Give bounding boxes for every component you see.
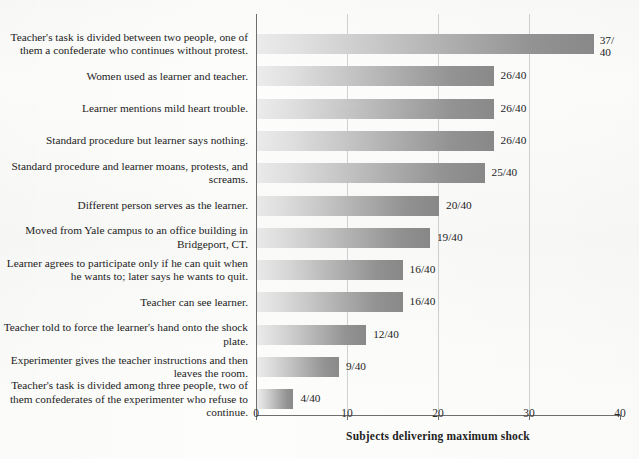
bar-fill bbox=[257, 325, 366, 345]
bar[interactable] bbox=[257, 228, 430, 248]
bar[interactable] bbox=[257, 325, 366, 345]
bar-chart-figure: 010203040 Subjects delivering maximum sh… bbox=[0, 0, 639, 459]
category-label: Learner mentions mild heart trouble. bbox=[0, 102, 248, 115]
category-label: Standard procedure but learner says noth… bbox=[0, 134, 248, 147]
bar-row: Standard procedure but learner says noth… bbox=[0, 131, 639, 151]
bar-value-label: 16/40 bbox=[410, 296, 436, 308]
bar[interactable] bbox=[257, 34, 594, 54]
bar[interactable] bbox=[257, 357, 339, 377]
category-label: Learner agrees to participate only if he… bbox=[0, 257, 248, 284]
category-label: Teacher's task is divided between two pe… bbox=[0, 31, 248, 58]
bar-row: Teacher can see learner.16/40 bbox=[0, 292, 639, 312]
bar-fill bbox=[257, 66, 494, 86]
category-label: Moved from Yale campus to an office buil… bbox=[0, 224, 248, 251]
bar-fill bbox=[257, 228, 430, 248]
bar-value-label: 16/40 bbox=[410, 264, 436, 276]
bar-value-label: 26/40 bbox=[501, 103, 527, 115]
bar-fill bbox=[257, 260, 403, 280]
bar-value-label: 37/ 40 bbox=[600, 34, 614, 58]
bar-fill bbox=[257, 99, 494, 119]
bar-row: Standard procedure and learner moans, pr… bbox=[0, 163, 639, 183]
bar-row: Learner agrees to participate only if he… bbox=[0, 260, 639, 280]
bar[interactable] bbox=[257, 260, 403, 280]
bar-value-label: 25/40 bbox=[492, 167, 518, 179]
bar-row: Teacher told to force the learner's hand… bbox=[0, 325, 639, 345]
bar[interactable] bbox=[257, 292, 403, 312]
bar-value-label: 9/40 bbox=[346, 361, 366, 373]
category-label: Teacher told to force the learner's hand… bbox=[0, 321, 248, 348]
bar-row: Learner mentions mild heart trouble.26/4… bbox=[0, 99, 639, 119]
bar-fill bbox=[257, 163, 485, 183]
bar-fill bbox=[257, 292, 403, 312]
bar-value-label: 26/40 bbox=[501, 70, 527, 82]
bar-row: Teacher's task is divided between two pe… bbox=[0, 34, 639, 54]
bar[interactable] bbox=[257, 131, 494, 151]
category-label: Standard procedure and learner moans, pr… bbox=[0, 160, 248, 187]
bar-fill bbox=[257, 357, 339, 377]
category-label: Women used as learner and teacher. bbox=[0, 70, 248, 83]
category-label: Different person serves as the learner. bbox=[0, 199, 248, 212]
bar[interactable] bbox=[257, 163, 485, 183]
category-label: Teacher's task is divided among three pe… bbox=[0, 379, 248, 419]
category-label: Teacher can see learner. bbox=[0, 296, 248, 309]
bar-row: Teacher's task is divided among three pe… bbox=[0, 389, 639, 409]
bar-row: Women used as learner and teacher.26/40 bbox=[0, 66, 639, 86]
bar-value-label: 26/40 bbox=[501, 135, 527, 147]
bar-row: Experimenter gives the teacher instructi… bbox=[0, 357, 639, 377]
bar-fill bbox=[257, 196, 439, 216]
bar-value-label: 20/40 bbox=[446, 200, 472, 212]
bar-value-label: 4/40 bbox=[300, 393, 320, 405]
category-label: Experimenter gives the teacher instructi… bbox=[0, 354, 248, 381]
bar[interactable] bbox=[257, 66, 494, 86]
bar-fill bbox=[257, 389, 293, 409]
bar-row: Moved from Yale campus to an office buil… bbox=[0, 228, 639, 248]
bar-fill bbox=[257, 131, 494, 151]
bar-row: Different person serves as the learner.2… bbox=[0, 196, 639, 216]
bar[interactable] bbox=[257, 99, 494, 119]
bar[interactable] bbox=[257, 389, 293, 409]
x-axis-title: Subjects delivering maximum shock bbox=[256, 430, 620, 442]
bar-value-label: 19/40 bbox=[437, 232, 463, 244]
bar[interactable] bbox=[257, 196, 439, 216]
bar-fill bbox=[257, 34, 594, 54]
bar-value-label: 12/40 bbox=[373, 329, 399, 341]
